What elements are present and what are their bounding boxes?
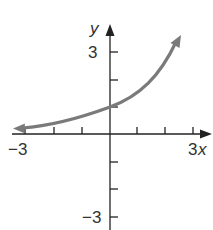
x-axis xyxy=(12,127,212,139)
y-axis-label: y xyxy=(89,19,100,38)
x-axis-ticks xyxy=(25,127,193,134)
x-max-label: 3 xyxy=(188,140,197,159)
x-min-label: −3 xyxy=(8,140,27,159)
graph: y 3 −3 3 x −3 xyxy=(0,0,213,230)
curve-left-arrow-icon xyxy=(13,124,25,134)
y-axis-arrow-icon xyxy=(106,24,115,36)
y-axis xyxy=(106,24,119,230)
x-axis-arrow-icon xyxy=(200,130,212,139)
x-axis-label: x xyxy=(197,140,207,159)
y-max-label: 3 xyxy=(88,43,97,62)
y-min-label: −3 xyxy=(82,208,101,227)
